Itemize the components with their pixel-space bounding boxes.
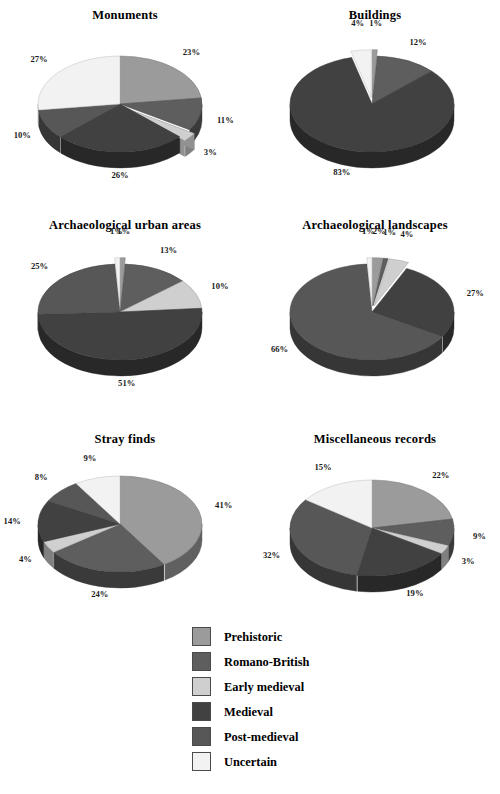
legend-item: Early medieval <box>192 674 392 699</box>
pie-svg <box>250 446 500 626</box>
legend-label: Early medieval <box>224 680 304 694</box>
pie-value-label: 11% <box>217 116 234 125</box>
pie-value-label: 12% <box>409 37 426 46</box>
pie-value-label: 4% <box>19 554 32 563</box>
pie-value-label: 13% <box>160 246 177 255</box>
pie-value-label: 9% <box>83 453 96 462</box>
chart-title: Monuments <box>0 8 250 22</box>
legend-swatch-romano-british <box>192 652 211 671</box>
pie-value-label: 1% <box>362 226 375 235</box>
chart-title: Miscellaneous records <box>250 432 500 446</box>
pie-value-label: 3% <box>462 556 475 565</box>
pie-value-label: 10% <box>211 282 228 291</box>
pie-value-label: 26% <box>111 171 128 180</box>
pie-value-label: 4% <box>401 230 414 239</box>
legend-swatch-post-medieval <box>192 727 211 746</box>
legend-swatch-medieval <box>192 702 211 721</box>
pie-value-label: 10% <box>14 130 31 139</box>
pie-value-label: 27% <box>467 288 484 297</box>
pie-value-label: 4% <box>351 19 364 28</box>
pie-value-label: 66% <box>271 345 288 354</box>
pie-svg <box>250 22 500 202</box>
legend-item: Prehistoric <box>192 624 392 649</box>
legend-item: Post-medieval <box>192 724 392 749</box>
pie-value-label: 22% <box>432 471 449 480</box>
legend-item: Medieval <box>192 699 392 724</box>
chart-title: Stray finds <box>0 432 250 446</box>
pie-value-label: 1% <box>110 226 123 235</box>
pie-chart: Miscellaneous records22%9%3%19%32%15% <box>250 432 500 626</box>
pie-value-label: 3% <box>204 147 217 156</box>
pie-chart: Archaeological landscapes2%1%4%27%66%1% <box>250 218 500 412</box>
pie-value-label: 1% <box>369 18 382 27</box>
pie-chart: Buildings1%12%83%4% <box>250 8 500 202</box>
figure-caption <box>22 783 480 793</box>
pie-value-label: 15% <box>314 462 331 471</box>
pie-value-label: 14% <box>4 516 21 525</box>
pie-plot-area: 1%12%83%4% <box>250 22 500 202</box>
pie-svg <box>250 232 500 412</box>
pie-value-label: 41% <box>215 501 232 510</box>
pie-value-label: 51% <box>118 378 135 387</box>
legend-label: Prehistoric <box>224 630 282 644</box>
pie-value-label: 32% <box>263 550 280 559</box>
pie-slice <box>38 264 120 314</box>
pie-value-label: 9% <box>473 531 486 540</box>
pie-plot-area: 41%24%4%14%8%9% <box>0 446 250 626</box>
legend-swatch-prehistoric <box>192 627 211 646</box>
pie-chart-grid: Monuments23%11%3%26%10%27%Buildings1%12%… <box>0 0 500 620</box>
pie-plot-area: 1%13%10%51%25%1% <box>0 232 250 412</box>
pie-value-label: 8% <box>35 473 48 482</box>
pie-slice <box>120 56 201 104</box>
pie-value-label: 23% <box>183 48 200 57</box>
chart-legend: PrehistoricRomano-BritishEarly medievalM… <box>192 624 392 774</box>
pie-value-label: 19% <box>406 589 423 598</box>
legend-swatch-early-medieval <box>192 677 211 696</box>
legend-label: Romano-British <box>224 655 309 669</box>
pie-slice <box>38 56 120 110</box>
pie-chart: Archaeological urban areas1%13%10%51%25%… <box>0 218 250 412</box>
pie-chart: Monuments23%11%3%26%10%27% <box>0 8 250 202</box>
legend-label: Uncertain <box>224 755 277 769</box>
legend-label: Medieval <box>224 705 273 719</box>
pie-value-label: 1% <box>383 227 396 236</box>
pie-plot-area: 2%1%4%27%66%1% <box>250 232 500 412</box>
pie-plot-area: 22%9%3%19%32%15% <box>250 446 500 626</box>
pie-chart: Stray finds41%24%4%14%8%9% <box>0 432 250 626</box>
legend-swatch-uncertain <box>192 752 211 771</box>
pie-value-label: 83% <box>333 168 350 177</box>
legend-item: Uncertain <box>192 749 392 774</box>
pie-value-label: 27% <box>30 54 47 63</box>
pie-value-label: 24% <box>91 589 108 598</box>
pie-plot-area: 23%11%3%26%10%27% <box>0 22 250 202</box>
legend-label: Post-medieval <box>224 730 298 744</box>
pie-value-label: 25% <box>31 262 48 271</box>
legend-item: Romano-British <box>192 649 392 674</box>
